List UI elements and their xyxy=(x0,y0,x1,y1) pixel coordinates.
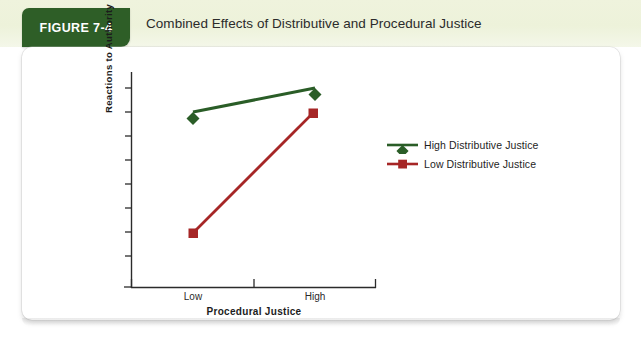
figure-header-band: FIGURE 7-4 Combined Effects of Distribut… xyxy=(0,0,641,47)
x-tick-label-high: High xyxy=(285,291,345,302)
legend-swatch-red xyxy=(387,155,418,173)
legend-swatch-green xyxy=(387,136,418,154)
legend-label-high-distributive-justice: High Distributive Justice xyxy=(424,139,539,151)
x-tick-label-low: Low xyxy=(163,291,223,302)
card-bottom-shadow xyxy=(22,318,620,326)
legend-label-low-distributive-justice: Low Distributive Justice xyxy=(424,158,536,170)
y-axis-title: Reactions to Authority xyxy=(103,97,114,113)
x-axis-title: Procedural Justice xyxy=(131,306,377,317)
figure-title: Combined Effects of Distributive and Pro… xyxy=(146,16,482,31)
